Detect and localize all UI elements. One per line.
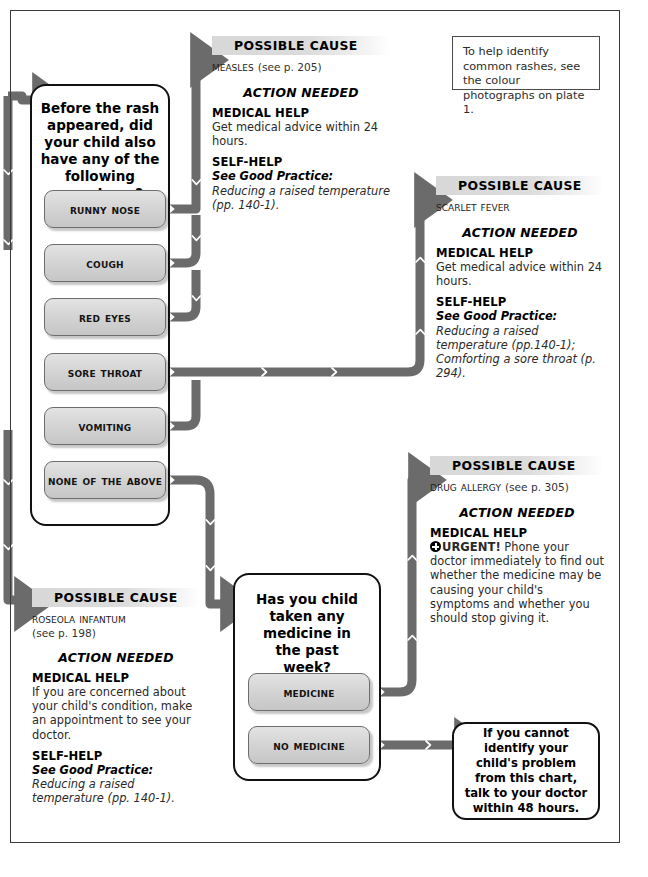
- panel-scarlet-fever: POSSIBLE CAUSE Scarlet fever ACTION NEED…: [436, 176, 604, 380]
- terminal-advice-text: If you cannot identify your child's prob…: [462, 726, 590, 816]
- option-cough[interactable]: Cough: [44, 244, 166, 282]
- urgent-cross-icon: [430, 541, 441, 552]
- option-vomiting[interactable]: Vomiting: [44, 407, 166, 445]
- self-help-text: See Good Practice: Reducing a raised tem…: [212, 169, 390, 212]
- cause-page-ref: (see p. 305): [505, 481, 569, 493]
- question-medicine-title: Has you child taken any medicine in the …: [235, 575, 379, 676]
- option-sore-throat[interactable]: Sore throat: [44, 353, 166, 391]
- question-symptoms-title: Before the rash appeared, did your child…: [32, 86, 168, 202]
- self-help-label: SELF-HELP: [32, 749, 200, 763]
- possible-cause-header-measles: POSSIBLE CAUSE: [212, 36, 390, 55]
- action-needed-roseola: ACTION NEEDED: [32, 650, 200, 665]
- action-needed-drug-allergy: ACTION NEEDED: [430, 505, 604, 520]
- possible-cause-header-scarlet-fever: POSSIBLE CAUSE: [436, 176, 604, 195]
- medical-help-text: Get medical advice within 24 hours.: [212, 120, 390, 148]
- cause-page-ref: (see p. 205): [258, 61, 322, 73]
- medical-help-label: MEDICAL HELP: [32, 671, 200, 685]
- cause-name-scarlet-fever: Scarlet fever: [436, 199, 604, 214]
- action-needed-measles: ACTION NEEDED: [212, 85, 390, 100]
- action-needed-scarlet-fever: ACTION NEEDED: [436, 225, 604, 240]
- medical-help-label: MEDICAL HELP: [212, 106, 390, 120]
- self-help-text: See Good Practice: Reducing a raised tem…: [32, 763, 200, 806]
- medical-help-label: MEDICAL HELP: [430, 526, 604, 540]
- self-help-label: SELF-HELP: [212, 155, 390, 169]
- self-help-text: See Good Practice: Reducing a raised tem…: [436, 309, 604, 380]
- medical-help-text: URGENT! Phone your doctor immediately to…: [430, 540, 604, 625]
- cause-name-measles: Measles (see p. 205): [212, 59, 390, 74]
- urgent-word: URGENT!: [442, 540, 501, 554]
- cause-name-drug-allergy: Drug allergy (see p. 305): [430, 479, 604, 494]
- terminal-advice-box: If you cannot identify your child's prob…: [452, 722, 600, 820]
- medical-help-text: If you are concerned about your child's …: [32, 685, 200, 742]
- option-no-medicine[interactable]: No medicine: [248, 726, 370, 764]
- cause-name-roseola: Roseola infantum: [32, 611, 200, 626]
- rash-photo-note-box: To help identify common rashes, see the …: [452, 36, 600, 90]
- cause-page-ref: (see p. 198): [32, 627, 200, 639]
- panel-drug-allergy: POSSIBLE CAUSE Drug allergy (see p. 305)…: [430, 456, 604, 625]
- option-runny-nose[interactable]: Runny nose: [44, 190, 166, 228]
- self-help-label: SELF-HELP: [436, 295, 604, 309]
- panel-measles: POSSIBLE CAUSE Measles (see p. 205) ACTI…: [212, 36, 390, 212]
- possible-cause-header-drug-allergy: POSSIBLE CAUSE: [430, 456, 604, 475]
- medical-help-text: Get medical advice within 24 hours.: [436, 260, 604, 288]
- option-medicine[interactable]: Medicine: [248, 673, 370, 711]
- panel-roseola-infantum: POSSIBLE CAUSE Roseola infantum (see p. …: [32, 588, 200, 805]
- option-none-of-the-above[interactable]: None of the above: [44, 461, 166, 499]
- medical-help-label: MEDICAL HELP: [436, 246, 604, 260]
- option-red-eyes[interactable]: Red eyes: [44, 298, 166, 336]
- possible-cause-header-roseola: POSSIBLE CAUSE: [32, 588, 200, 607]
